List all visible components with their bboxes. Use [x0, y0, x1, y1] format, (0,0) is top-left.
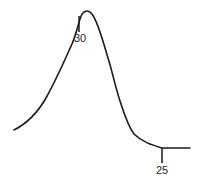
distribution-curve [14, 11, 190, 148]
diagram-canvas: 30 25 [0, 0, 202, 183]
peak-marker-label: 30 [74, 32, 86, 44]
tail-marker-label: 25 [156, 164, 168, 176]
